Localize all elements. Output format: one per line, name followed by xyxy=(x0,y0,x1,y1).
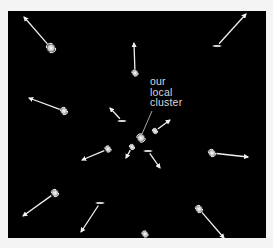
spiral-galaxy-icon xyxy=(195,205,204,214)
spiral-galaxy-icon xyxy=(60,107,69,116)
edge-on-galaxy-icon xyxy=(211,45,223,48)
spiral-galaxy-icon xyxy=(51,189,60,198)
spiral-galaxy-icon xyxy=(136,133,146,143)
edge-on-galaxy-icon xyxy=(116,120,128,123)
edge-on-galaxy-icon xyxy=(94,202,106,205)
expanding-universe-diagram: our local cluster xyxy=(0,0,273,248)
edge-on-galaxy-icon xyxy=(142,150,154,153)
diagram-canvas xyxy=(0,0,273,248)
velocity-arrow-icon xyxy=(134,43,135,69)
label-line-1: our xyxy=(150,76,166,87)
label-line-3: cluster xyxy=(150,97,182,108)
spiral-galaxy-icon xyxy=(208,149,217,158)
local-cluster-galaxy xyxy=(136,133,146,143)
galaxy-g14 xyxy=(141,230,149,238)
